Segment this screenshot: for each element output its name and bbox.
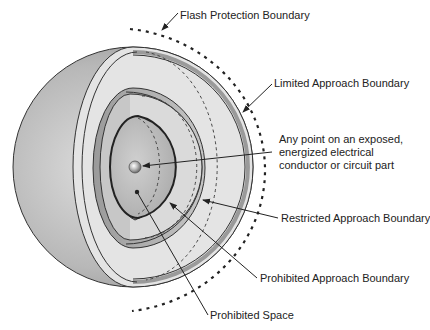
label-limited-approach-boundary: Limited Approach Boundary: [274, 77, 409, 90]
leader-flash-protection: [162, 13, 178, 30]
label-flash-protection-boundary: Flash Protection Boundary: [180, 9, 310, 22]
leader-limited-approach: [243, 84, 272, 112]
label-prohibited-space: Prohibited Space: [210, 309, 294, 322]
label-exposed-energized-point: Any point on an exposed, energized elect…: [279, 133, 424, 172]
label-prohibited-approach-boundary: Prohibited Approach Boundary: [260, 272, 409, 285]
label-restricted-approach-boundary: Restricted Approach Boundary: [281, 212, 430, 225]
energized-conductor-point: [129, 161, 141, 173]
